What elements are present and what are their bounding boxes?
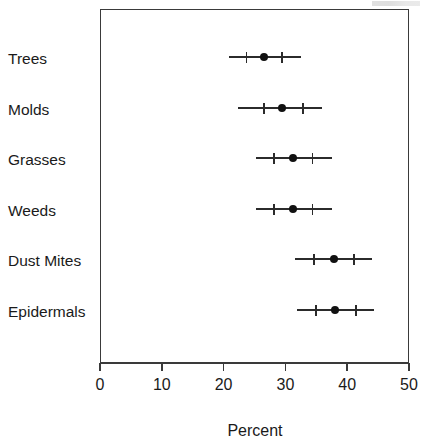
x-axis-tick <box>408 363 410 371</box>
category-label: Molds <box>8 102 49 118</box>
chart-figure: TreesMoldsGrassesWeedsDust MitesEpiderma… <box>0 0 422 447</box>
scan-artifact <box>372 1 420 6</box>
x-axis-tick-label: 10 <box>153 377 171 393</box>
category-label: Trees <box>8 51 47 67</box>
x-axis-title: Percent <box>0 422 422 440</box>
category-label: Dust Mites <box>8 253 81 269</box>
x-axis-title-text: Percent <box>227 422 282 439</box>
x-axis-line <box>100 362 409 364</box>
x-axis-tick <box>285 363 287 371</box>
x-axis-tick-label: 40 <box>338 377 356 393</box>
x-axis-tick-label: 0 <box>96 377 105 393</box>
x-axis-tick-label: 30 <box>276 377 294 393</box>
plot-area-frame <box>100 9 409 363</box>
x-axis-tick <box>223 363 225 371</box>
x-axis-tick <box>346 363 348 371</box>
category-label: Grasses <box>8 152 66 168</box>
category-label: Epidermals <box>8 304 86 320</box>
x-axis-tick-label: 50 <box>400 377 418 393</box>
x-axis-tick <box>99 363 101 371</box>
category-label: Weeds <box>8 203 56 219</box>
x-axis-tick <box>161 363 163 371</box>
x-axis-tick-label: 20 <box>215 377 233 393</box>
